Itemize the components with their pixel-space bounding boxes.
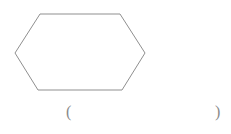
close-paren: ) xyxy=(215,101,220,123)
open-paren: ( xyxy=(66,101,71,123)
answer-blank-input[interactable] xyxy=(78,101,213,123)
hexagon-outline xyxy=(15,14,145,90)
worksheet-page: ( ) xyxy=(0,0,231,134)
answer-row: ( ) xyxy=(0,101,231,127)
